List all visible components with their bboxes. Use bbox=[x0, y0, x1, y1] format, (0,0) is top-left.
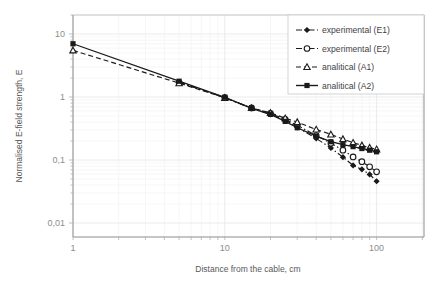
data-point-open-circle bbox=[340, 147, 346, 153]
data-point-filled-square bbox=[249, 106, 254, 111]
legend-item-label: analitical (A1) bbox=[322, 62, 374, 72]
data-point-filled-square bbox=[70, 41, 75, 46]
x-tick-label: 10 bbox=[220, 243, 230, 253]
y-tick-label: 0,1 bbox=[52, 155, 65, 165]
legend-item-label: experimental (E1) bbox=[322, 25, 390, 35]
data-point-filled-square bbox=[340, 142, 345, 147]
y-tick-label: 1 bbox=[60, 92, 65, 102]
data-point-filled-square bbox=[367, 148, 372, 153]
legend-item-label: experimental (E2) bbox=[322, 44, 390, 54]
data-point-open-circle bbox=[374, 169, 380, 175]
x-tick-label: 1 bbox=[70, 243, 75, 253]
legend-item-label: analitical (A2) bbox=[322, 81, 374, 91]
log-log-chart: 110100 1010,10,01 Distance from the cabl… bbox=[0, 0, 443, 288]
data-point-filled-square bbox=[268, 112, 273, 117]
data-point-open-circle bbox=[350, 154, 356, 160]
data-point-filled-square bbox=[177, 79, 182, 84]
data-point-filled-square bbox=[314, 133, 319, 138]
legend: experimental (E1)experimental (E2)analit… bbox=[288, 15, 424, 94]
data-point-open-circle bbox=[367, 164, 373, 170]
data-point-filled-square bbox=[222, 95, 227, 100]
data-point-filled-square bbox=[328, 139, 333, 144]
data-point-filled-square bbox=[374, 149, 379, 154]
data-point-filled-square bbox=[283, 119, 288, 124]
data-point-filled-square bbox=[359, 146, 364, 151]
y-tick-label: 10 bbox=[55, 29, 65, 39]
data-point-filled-square bbox=[295, 125, 300, 130]
data-point-filled-square bbox=[350, 144, 355, 149]
data-point-open-circle bbox=[304, 46, 310, 52]
y-tick-label: 0,01 bbox=[47, 218, 65, 228]
data-point-open-circle bbox=[359, 159, 365, 165]
chart-container: 110100 1010,10,01 Distance from the cabl… bbox=[0, 0, 443, 288]
data-point-filled-square bbox=[304, 83, 309, 88]
x-tick-label: 100 bbox=[369, 243, 384, 253]
y-axis-title: Normalised E-field strength, E bbox=[14, 69, 24, 182]
x-axis-title: Distance from the cable, cm bbox=[195, 264, 300, 274]
